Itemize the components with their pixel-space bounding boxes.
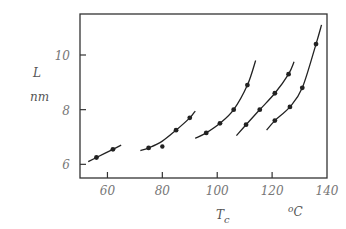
x-tick-label: 80 (155, 184, 171, 198)
plot-frame (80, 14, 327, 178)
y-tick-label: 10 (55, 49, 71, 63)
x-tick-label: 60 (100, 184, 116, 198)
series-2 (140, 111, 195, 151)
series-4 (236, 62, 294, 136)
data-point (288, 105, 293, 110)
data-point (286, 72, 291, 77)
data-point (272, 91, 277, 96)
data-point (272, 118, 277, 123)
data-point (174, 128, 179, 133)
data-point (244, 122, 249, 127)
x-axis-unit: oC (288, 204, 303, 219)
data-series (88, 25, 321, 162)
data-point (245, 83, 250, 88)
outlier-point (160, 144, 164, 148)
series-5 (267, 25, 322, 130)
axis-ticks (80, 55, 272, 178)
data-point (314, 42, 319, 47)
data-point (94, 155, 99, 160)
x-tick-label: 100 (206, 184, 229, 198)
fit-curve (267, 25, 322, 130)
y-axis-label: L (32, 66, 41, 80)
y-tick-label: 6 (62, 158, 70, 172)
fit-curve (140, 111, 195, 151)
x-tick-label: 120 (261, 184, 284, 198)
data-point (231, 107, 236, 112)
data-point (204, 131, 209, 136)
data-point (218, 121, 223, 126)
data-point (146, 146, 151, 151)
x-axis-label: Tc (216, 208, 230, 225)
chart: 60801001201406810 L nm Tc oC (0, 0, 346, 229)
axis-tick-labels: 60801001201406810 (55, 49, 339, 198)
y-tick-label: 8 (62, 104, 70, 118)
data-point (111, 147, 116, 152)
fit-curve (88, 145, 121, 161)
data-point (257, 107, 262, 112)
x-tick-label: 140 (316, 184, 339, 198)
data-point (187, 115, 192, 120)
data-point (300, 85, 305, 90)
series-1 (88, 145, 121, 161)
y-axis-unit: nm (30, 90, 49, 104)
